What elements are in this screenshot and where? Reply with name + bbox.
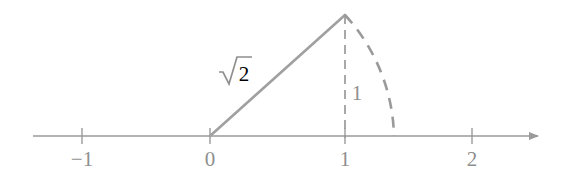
hypotenuse-line bbox=[210, 15, 345, 136]
sqrt-2-label: 2 bbox=[219, 57, 252, 86]
vertical-leg-length-label: 1 bbox=[352, 81, 363, 105]
tick-label-minus-1: −1 bbox=[71, 147, 93, 171]
tick-label-2: 2 bbox=[467, 147, 478, 171]
figure-container: −1 0 1 2 2 1 bbox=[0, 0, 568, 178]
tick-label-1: 1 bbox=[340, 147, 351, 171]
tick-label-0: 0 bbox=[205, 147, 216, 171]
number-line-diagram: −1 0 1 2 2 1 bbox=[0, 0, 568, 178]
sqrt-radicand-label: 2 bbox=[239, 62, 250, 86]
compass-arc-dashed bbox=[345, 15, 394, 136]
